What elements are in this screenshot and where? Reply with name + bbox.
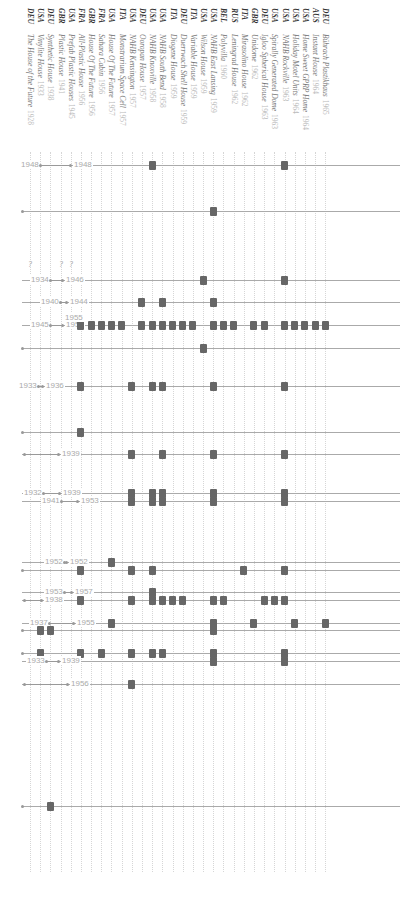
data-marker[interactable] [108, 321, 115, 330]
data-marker[interactable] [210, 497, 217, 506]
data-marker[interactable] [149, 596, 156, 605]
data-marker[interactable] [159, 450, 166, 459]
data-marker[interactable] [159, 382, 166, 391]
data-marker[interactable] [149, 161, 156, 170]
data-marker[interactable] [301, 321, 308, 330]
data-marker[interactable] [210, 382, 217, 391]
data-marker[interactable] [281, 497, 288, 506]
data-marker[interactable] [281, 596, 288, 605]
data-marker[interactable] [281, 321, 288, 330]
data-marker[interactable] [138, 321, 145, 330]
country-code: FRA [76, 8, 85, 34]
data-marker[interactable] [250, 619, 257, 628]
country-code: ITA [239, 8, 248, 34]
data-marker[interactable] [291, 619, 298, 628]
data-marker[interactable] [179, 321, 186, 330]
column-header: RUSLeningrad House1962 [229, 0, 239, 150]
data-marker[interactable] [128, 649, 135, 658]
data-marker[interactable] [281, 566, 288, 575]
data-marker[interactable] [149, 321, 156, 330]
data-marker[interactable] [281, 161, 288, 170]
data-marker[interactable] [210, 207, 217, 216]
data-marker[interactable] [281, 450, 288, 459]
data-marker[interactable] [210, 626, 217, 635]
data-marker[interactable] [159, 497, 166, 506]
range-start-dot [63, 591, 66, 594]
data-marker[interactable] [47, 626, 54, 635]
data-marker[interactable] [149, 382, 156, 391]
data-marker[interactable] [149, 566, 156, 575]
data-marker[interactable] [210, 596, 217, 605]
data-marker[interactable] [291, 321, 298, 330]
data-marker[interactable] [128, 450, 135, 459]
data-marker[interactable] [210, 657, 217, 666]
data-marker[interactable] [149, 497, 156, 506]
data-marker[interactable] [159, 649, 166, 658]
data-marker[interactable] [189, 321, 196, 330]
range-end-label: 1936 [45, 381, 65, 390]
data-marker[interactable] [271, 596, 278, 605]
data-marker[interactable] [312, 321, 319, 330]
data-marker[interactable] [322, 619, 329, 628]
column-header-text: BELPolyvilla1960 [219, 8, 228, 79]
data-marker[interactable] [128, 680, 135, 689]
data-marker[interactable] [210, 321, 217, 330]
data-marker[interactable] [77, 428, 84, 437]
data-marker[interactable] [322, 321, 329, 330]
range-start-label: 1940 [40, 297, 60, 306]
column-header-text: USAWilson House1959 [199, 8, 208, 93]
data-marker[interactable] [169, 321, 176, 330]
data-marker[interactable] [47, 802, 54, 811]
data-marker[interactable] [220, 321, 227, 330]
data-marker[interactable] [37, 626, 44, 635]
data-marker[interactable] [281, 657, 288, 666]
column-gridline [213, 152, 214, 872]
data-marker[interactable] [169, 596, 176, 605]
data-marker[interactable] [250, 321, 257, 330]
data-marker[interactable] [98, 649, 105, 658]
data-marker[interactable] [128, 497, 135, 506]
column-gridline [91, 152, 92, 872]
country-code: BEL [219, 8, 228, 34]
data-marker[interactable] [281, 276, 288, 285]
data-marker[interactable] [240, 566, 247, 575]
row-start-dot [21, 805, 24, 808]
data-marker[interactable] [200, 344, 207, 353]
data-marker[interactable] [210, 450, 217, 459]
data-marker[interactable] [138, 298, 145, 307]
column-header: AUSInstant House1964 [310, 0, 320, 150]
data-marker[interactable] [200, 276, 207, 285]
house-year: 1964 [290, 99, 299, 114]
data-marker[interactable] [220, 596, 227, 605]
data-marker[interactable] [118, 321, 125, 330]
data-marker[interactable] [210, 298, 217, 307]
data-marker[interactable] [128, 566, 135, 575]
data-marker[interactable] [77, 596, 84, 605]
data-marker[interactable] [108, 558, 115, 567]
data-marker[interactable] [77, 566, 84, 575]
data-marker[interactable] [159, 298, 166, 307]
data-marker[interactable] [159, 596, 166, 605]
data-marker[interactable] [77, 382, 84, 391]
data-marker[interactable] [281, 382, 288, 391]
column-header: USANAHB Rockville1963 [280, 0, 290, 150]
row-track-line [22, 348, 400, 349]
range-start-dot [59, 301, 62, 304]
data-marker[interactable] [128, 596, 135, 605]
house-year: 1962 [239, 91, 248, 106]
house-name: Igloo Spherical House [260, 34, 269, 102]
country-code: ITA [117, 8, 126, 34]
data-marker[interactable] [261, 596, 268, 605]
data-marker[interactable] [149, 649, 156, 658]
data-marker[interactable] [179, 596, 186, 605]
range-start-dot [39, 164, 42, 167]
data-marker[interactable] [128, 382, 135, 391]
data-marker[interactable] [108, 619, 115, 628]
house-year: 1959 [188, 83, 197, 98]
data-marker[interactable] [98, 321, 105, 330]
house-name: Bührach Plastikhaus [321, 34, 330, 97]
data-marker[interactable] [159, 321, 166, 330]
data-marker[interactable] [261, 321, 268, 330]
data-marker[interactable] [230, 321, 237, 330]
data-marker[interactable] [88, 321, 95, 330]
